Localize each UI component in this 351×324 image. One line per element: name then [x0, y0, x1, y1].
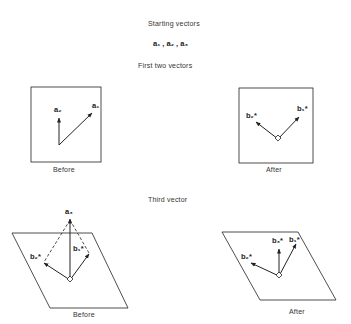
b2-arrow [44, 263, 70, 280]
label-b1-after: b₁* [297, 104, 308, 113]
a1-arrow [59, 113, 92, 145]
b2-arrow [256, 122, 278, 139]
third-before-panel [12, 219, 128, 308]
label-b3-third-after: b₃* [272, 236, 283, 245]
b2-arrow [251, 263, 279, 276]
b1-arrow [278, 117, 299, 139]
label-b2-after: b₂* [246, 111, 257, 120]
label-b1-third-after: b₁* [289, 235, 300, 244]
label-b2-third-before: b₂* [30, 252, 41, 261]
b1-arrow [70, 254, 89, 280]
vector-diagram [0, 0, 351, 324]
label-a2-before: a₂ [54, 105, 62, 114]
label-a1-before: a₁ [92, 101, 99, 110]
label-b2-third-after: b₂* [241, 252, 252, 261]
first-two-before-panel [31, 87, 101, 162]
label-a3-third-before: a₃ [65, 207, 73, 216]
b1-arrow [279, 244, 296, 276]
first-two-after-panel [239, 88, 313, 163]
right-angle-marker [275, 135, 281, 141]
label-b1-third-before: b₁* [73, 244, 84, 253]
